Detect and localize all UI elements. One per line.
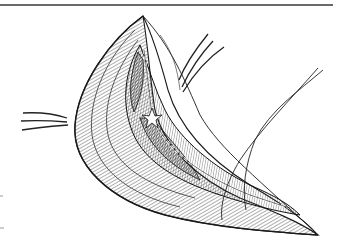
arrow-down-left-icon bbox=[179, 34, 208, 80]
arrow-right-icon bbox=[21, 121, 67, 122]
arrow-down-left-icon bbox=[183, 47, 224, 92]
left-arrows bbox=[21, 113, 68, 130]
surgical-illustration bbox=[0, 0, 349, 249]
arrow-right-icon bbox=[22, 125, 68, 130]
arrow-right-icon bbox=[23, 113, 67, 118]
